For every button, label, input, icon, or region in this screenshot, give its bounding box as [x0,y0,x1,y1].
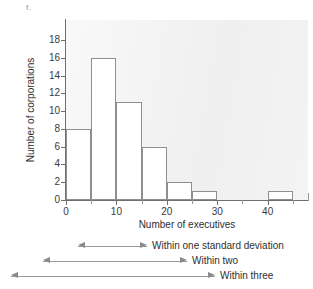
range-line [11,276,215,277]
y-axis-title: Number of corporations [25,35,37,185]
histogram-bar [66,129,91,200]
histogram-bar [116,102,141,200]
figure-label: f. [26,3,31,13]
histogram-bar [142,147,167,200]
x-tick [192,200,193,204]
arrow-right-icon [208,272,215,278]
range-annotation: Within three [0,269,313,283]
x-tick [167,200,168,205]
x-tick [217,200,218,205]
x-tick [268,200,269,205]
x-tick [91,200,92,204]
y-tick [61,93,66,94]
x-axis-title: Number of executives [66,219,308,231]
range-line [43,261,187,262]
x-tick-label: 20 [155,206,179,217]
y-tick [61,182,66,183]
y-tick-label: 4 [40,159,60,169]
y-tick-label: 8 [40,124,60,134]
y-tick [61,147,66,148]
range-line [78,246,147,247]
y-tick-label: 10 [40,106,60,116]
y-tick [61,58,66,59]
y-tick-label: 12 [40,88,60,98]
x-tick [142,200,143,204]
y-tick [61,129,66,130]
x-tick-label: 10 [104,206,128,217]
y-tick-label: 18 [40,35,60,45]
arrow-left-icon [43,257,50,263]
range-annotation: Within one standard deviation [0,239,313,253]
y-tick-label: 14 [40,71,60,81]
histogram-figure: f. 024681012141618 010203040 Number of e… [0,0,313,289]
y-tick-label: 16 [40,53,60,63]
y-tick-label: 0 [40,195,60,205]
range-label: Within three [220,269,273,283]
x-tick [66,200,67,205]
arrow-right-icon [140,242,147,248]
y-tick [61,76,66,77]
x-tick-label: 40 [256,206,280,217]
x-tick [242,200,243,204]
range-annotation: Within two [0,254,313,268]
histogram-bar [167,182,192,200]
range-label: Within one standard deviation [152,239,284,253]
x-tick-label: 0 [54,206,78,217]
arrow-right-icon [180,257,187,263]
y-tick-label: 2 [40,177,60,187]
x-tick-label: 30 [205,206,229,217]
arrow-left-icon [78,242,85,248]
histogram-bar [268,191,293,200]
x-tick [116,200,117,205]
x-axis-end-cap [308,193,309,201]
x-axis-line [65,200,309,201]
y-axis-line [65,19,66,201]
x-tick [293,200,294,204]
histogram-bar [192,191,217,200]
histogram-bar [91,58,116,200]
y-tick-label: 6 [40,142,60,152]
y-tick [61,111,66,112]
y-tick [61,40,66,41]
arrow-left-icon [11,272,18,278]
y-tick [61,164,66,165]
range-label: Within two [192,254,238,268]
